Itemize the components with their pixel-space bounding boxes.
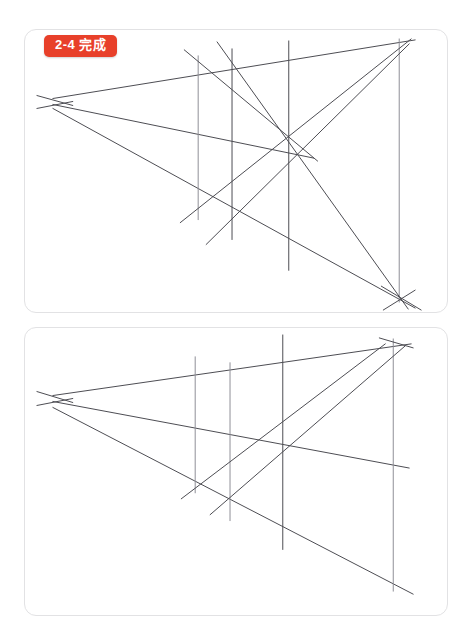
cut-off-header-text bbox=[6, 0, 266, 9]
perspective-svg-2 bbox=[25, 328, 447, 615]
ray-middle bbox=[53, 104, 314, 158]
diagonal-2 bbox=[206, 44, 409, 245]
status-badge: 2-4 完成 bbox=[44, 35, 117, 57]
perspective-card-2[interactable] bbox=[24, 327, 448, 616]
perspective-card-1[interactable]: 2-4 完成 bbox=[24, 29, 448, 313]
perspective-svg-1 bbox=[25, 30, 447, 312]
diagonal-2 bbox=[210, 346, 405, 515]
diagonal-3 bbox=[217, 42, 408, 309]
perspective-drawing-1 bbox=[25, 30, 447, 312]
perspective-drawing-2 bbox=[25, 328, 447, 615]
screenshot-stage: 2-4 完成 bbox=[0, 0, 471, 642]
vp-tick-a bbox=[37, 96, 73, 106]
diagonal-1 bbox=[180, 39, 411, 223]
ray-bottom bbox=[53, 108, 415, 308]
